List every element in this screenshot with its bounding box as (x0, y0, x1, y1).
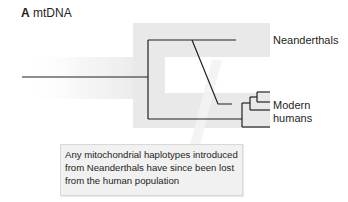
callout-text: Any mitochondrial haplotypes introduced … (65, 149, 238, 186)
shaded-background (20, 23, 270, 145)
neanderthals-label: Neanderthals (273, 34, 338, 47)
humans-label: humans (273, 112, 312, 125)
modern-label: Modern (273, 99, 310, 112)
callout-box: Any mitochondrial haplotypes introduced … (60, 144, 243, 196)
